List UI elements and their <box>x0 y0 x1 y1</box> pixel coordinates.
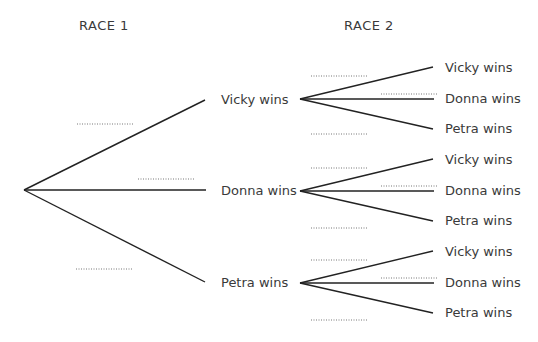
branch-r1-vicky <box>24 100 205 190</box>
r2-petra-vicky: Vicky wins <box>445 244 513 260</box>
r2-donna-vicky: Vicky wins <box>445 152 513 168</box>
r2-petra-donna: Donna wins <box>445 275 521 291</box>
race2-header: RACE 2 <box>344 18 394 34</box>
r2-donna-petra: Petra wins <box>445 213 512 229</box>
r2-vicky-vicky: Vicky wins <box>445 60 513 76</box>
r1-label-vicky: Vicky wins <box>221 92 289 108</box>
r1-label-donna: Donna wins <box>221 183 297 199</box>
r2-donna-donna: Donna wins <box>445 183 521 199</box>
r2-vicky-petra: Petra wins <box>445 121 512 137</box>
r2-vicky-donna: Donna wins <box>445 91 521 107</box>
race1-header: RACE 1 <box>79 18 129 34</box>
branch-r1-petra <box>24 190 205 282</box>
r2-petra-petra: Petra wins <box>445 305 512 321</box>
r1-label-petra: Petra wins <box>221 275 288 291</box>
